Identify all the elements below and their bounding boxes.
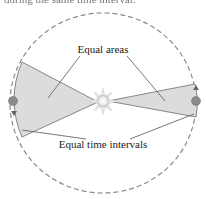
left-planet-icon xyxy=(9,97,18,106)
right-planet-icon xyxy=(192,97,201,106)
right-area-wedge xyxy=(108,84,197,117)
left-area-wedge xyxy=(14,62,98,137)
kepler-diagram: Equal areas Equal time intervals xyxy=(0,0,206,199)
equal-time-intervals-label: Equal time intervals xyxy=(59,138,148,150)
sun-icon xyxy=(89,88,117,115)
leader-line-right-time xyxy=(130,114,194,139)
equal-areas-label: Equal areas xyxy=(78,43,129,55)
